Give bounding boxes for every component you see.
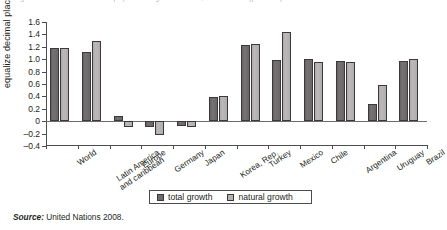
x-axis-tick <box>427 145 428 149</box>
bar-natural <box>187 121 196 127</box>
y-axis-tick-label: –0.2 <box>23 129 40 138</box>
bar-total <box>241 45 250 121</box>
x-axis-label: Brazil <box>425 148 447 167</box>
chart-legend: total growth natural growth <box>149 190 312 204</box>
y-axis-tick-label: 1.0 <box>28 55 40 64</box>
x-axis-label-line: Argentina <box>364 148 398 175</box>
source-prefix: Source: <box>13 212 44 222</box>
legend-swatch-icon-total <box>157 194 164 201</box>
bar-group <box>205 22 237 146</box>
x-axis-label: Japan <box>203 148 227 168</box>
legend-item-natural-growth: natural growth <box>227 192 292 202</box>
y-axis-tick-label: 0.4 <box>28 92 40 101</box>
bar-group <box>332 22 364 146</box>
x-axis-label-line: Uruguay <box>395 148 426 173</box>
x-axis-label: World <box>76 148 99 168</box>
x-axis-label-line: Brazil <box>425 148 447 167</box>
bar-group <box>364 22 396 146</box>
bar-total <box>336 61 345 121</box>
x-axis-label: Germany <box>173 148 206 175</box>
bar-total <box>177 121 186 126</box>
y-axis-tick-label: 0.2 <box>28 105 40 114</box>
bar-group <box>300 22 332 146</box>
figure-title-cutoff: igure 1. Total and natural population gr… <box>18 0 282 2</box>
x-axis-label: Uruguay <box>395 148 426 173</box>
legend-swatch-icon-natural <box>227 194 234 201</box>
x-axis-label: Mexico <box>299 148 326 170</box>
bar-group <box>237 22 269 146</box>
bar-total <box>368 104 377 121</box>
x-axis-label-line: Chile <box>329 148 350 166</box>
bar-total <box>272 60 281 121</box>
y-axis-tick-label: 0.6 <box>28 80 40 89</box>
bar-group <box>268 22 300 146</box>
bar-natural <box>346 62 355 122</box>
legend-item-total-growth: total growth <box>157 192 212 202</box>
bar-natural <box>251 44 260 121</box>
y-axis-tick-label: 0 <box>35 117 40 126</box>
bar-natural <box>378 85 387 121</box>
bar-total <box>114 116 123 121</box>
bar-group <box>141 22 173 146</box>
bar-group <box>173 22 205 146</box>
x-axis-label: Chile <box>329 148 350 166</box>
bar-natural <box>155 121 164 135</box>
bar-total <box>209 97 218 121</box>
x-axis-label-line: Germany <box>173 148 206 175</box>
bar-group <box>46 22 78 146</box>
source-note: Source: United Nations 2008. <box>13 212 124 222</box>
y-axis-tick-label: 1.6 <box>28 18 40 27</box>
bar-natural <box>282 32 291 121</box>
x-axis-label: Argentina <box>364 148 398 175</box>
bar-total <box>145 121 154 127</box>
bar-group <box>78 22 110 146</box>
bar-group <box>395 22 427 146</box>
bar-natural <box>314 62 323 122</box>
bar-total <box>82 52 91 121</box>
x-axis-label-line: Japan <box>203 148 227 168</box>
source-text: United Nations 2008. <box>46 212 124 222</box>
bar-total <box>50 48 59 121</box>
bar-group <box>110 22 142 146</box>
y-axis-tick-label: 1.4 <box>28 30 40 39</box>
bar-total <box>399 61 408 121</box>
x-axis-label-line: Mexico <box>299 148 326 170</box>
bar-total <box>304 59 313 121</box>
bar-natural <box>60 48 69 121</box>
legend-label-natural: natural growth <box>238 192 292 202</box>
y-axis-tick-label: –0.4 <box>23 142 40 151</box>
bar-natural <box>124 121 133 127</box>
y-axis-tick-label: 0.8 <box>28 67 40 76</box>
bar-natural <box>219 96 228 121</box>
x-axis-label-line: World <box>76 148 99 168</box>
y-axis-tick-label: 1.2 <box>28 43 40 52</box>
y-axis-title: equalize decimal places <box>2 0 12 88</box>
bar-natural <box>409 59 418 121</box>
bar-natural <box>92 41 101 122</box>
legend-label-total: total growth <box>168 192 212 202</box>
plot-area: 1.61.41.21.00.80.60.40.20–0.2–0.4 <box>46 22 427 146</box>
